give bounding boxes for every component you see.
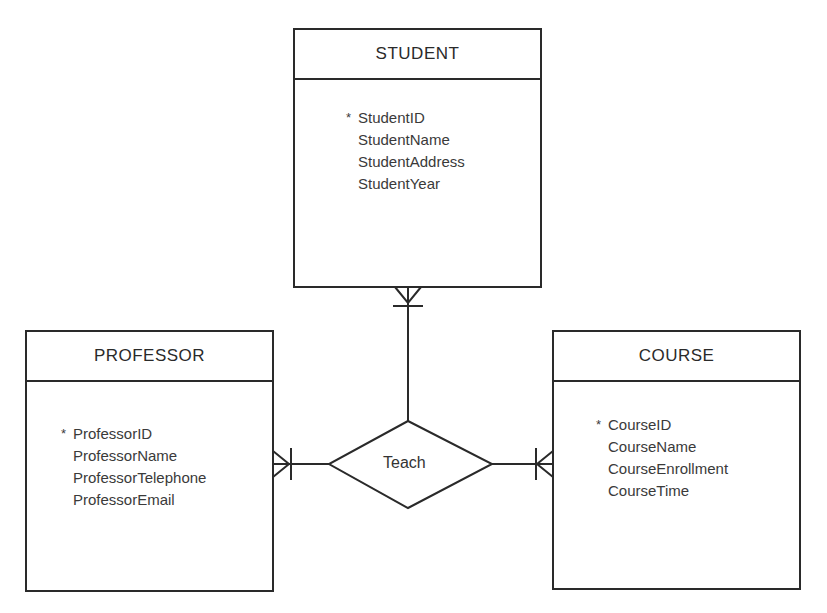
- entity-title: COURSE: [554, 332, 799, 382]
- attribute-item: StudentName: [358, 129, 465, 151]
- attribute-item: StudentYear: [358, 173, 465, 195]
- attribute-item: CourseName: [608, 436, 728, 458]
- attribute-item: *ProfessorID: [73, 423, 206, 445]
- entity-title: STUDENT: [295, 30, 540, 80]
- attribute-item: ProfessorTelephone: [73, 467, 206, 489]
- attribute-item: StudentAddress: [358, 151, 465, 173]
- primary-key-marker: *: [346, 107, 351, 129]
- attribute-list: *ProfessorID ProfessorName ProfessorTele…: [73, 423, 206, 511]
- attribute-list: *CourseID CourseName CourseEnrollment Co…: [608, 414, 728, 502]
- attribute-item: CourseTime: [608, 480, 728, 502]
- entity-student[interactable]: STUDENT *StudentID StudentName StudentAd…: [293, 28, 542, 288]
- primary-key-marker: *: [596, 414, 601, 436]
- entity-title: PROFESSOR: [27, 332, 272, 382]
- relationship-label: Teach: [383, 454, 426, 472]
- entity-course[interactable]: COURSE *CourseID CourseName CourseEnroll…: [552, 330, 801, 590]
- attribute-item: *CourseID: [608, 414, 728, 436]
- attribute-list: *StudentID StudentName StudentAddress St…: [358, 107, 465, 195]
- attribute-item: ProfessorName: [73, 445, 206, 467]
- entity-professor[interactable]: PROFESSOR *ProfessorID ProfessorName Pro…: [25, 330, 274, 592]
- primary-key-marker: *: [61, 423, 66, 445]
- attribute-item: CourseEnrollment: [608, 458, 728, 480]
- attribute-item: ProfessorEmail: [73, 489, 206, 511]
- attribute-item: *StudentID: [358, 107, 465, 129]
